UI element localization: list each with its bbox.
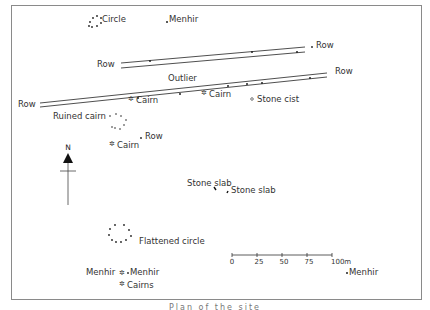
site-plan-map: Circle Menhir Row Row Outlier Row Row ✲ …	[0, 0, 430, 310]
cairn-icon: ✲	[109, 140, 115, 148]
cairn-icon: ✲	[128, 95, 134, 103]
label-stone-slab-1: Stone slab	[187, 178, 232, 188]
label-outlier: Outlier	[168, 73, 197, 83]
stone-row-upper	[121, 47, 305, 68]
label-cairns: Cairns	[127, 280, 154, 290]
label-cairn-3: Cairn	[117, 140, 139, 150]
label-cairn-1: Cairn	[136, 95, 158, 105]
label-row-lower-left: Row	[18, 99, 36, 109]
cairn-icon: ✲	[119, 269, 125, 277]
label-menhir-top: Menhir	[169, 14, 199, 24]
label-menhir-bl-left: Menhir	[86, 267, 116, 277]
svg-text:25: 25	[255, 258, 264, 266]
label-stone-cist: Stone cist	[257, 94, 300, 104]
label-circle: Circle	[102, 14, 126, 24]
menhir-marker	[166, 21, 168, 23]
ruined-cairn-icon	[109, 113, 127, 130]
flattened-circle-icon	[108, 224, 132, 243]
label-menhir-br: Menhir	[349, 267, 379, 277]
label-stone-slab-2: Stone slab	[231, 185, 276, 195]
stone-circle-icon	[88, 15, 102, 28]
svg-text:N: N	[65, 143, 71, 152]
svg-text:100m: 100m	[331, 258, 351, 266]
cairn-icon: ✲	[119, 280, 125, 288]
label-row-upper-left: Row	[97, 59, 115, 69]
map-caption: Plan of the site	[0, 303, 430, 310]
label-row-upper-right: Row	[316, 40, 334, 50]
svg-text:0: 0	[230, 258, 234, 266]
cairn-icon: ✲	[201, 89, 207, 97]
svg-text:75: 75	[305, 258, 314, 266]
label-ruined-cairn: Ruined cairn	[53, 111, 106, 121]
label-row-lower-right: Row	[335, 66, 353, 76]
label-row-small: Row	[145, 131, 163, 141]
label-flattened-circle: Flattened circle	[139, 236, 205, 246]
stone-cist-marker	[251, 98, 254, 101]
label-menhir-bl-right: Menhir	[130, 267, 160, 277]
north-arrow-icon: N	[60, 143, 76, 205]
svg-text:50: 50	[280, 258, 289, 266]
label-cairn-2: Cairn	[209, 89, 231, 99]
scale-bar	[232, 253, 332, 257]
